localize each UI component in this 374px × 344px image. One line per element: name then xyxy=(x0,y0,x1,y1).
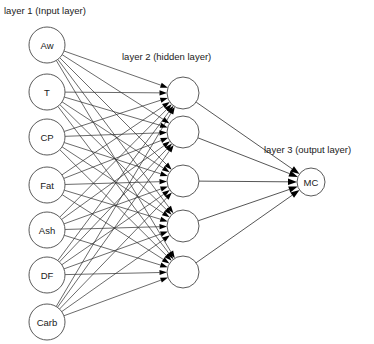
input-layer-node-1[interactable]: T xyxy=(29,74,65,110)
hidden-layer-node-circle-3 xyxy=(167,210,199,242)
input-layer-node-0[interactable]: Aw xyxy=(29,27,65,63)
input-layer-node-label-1: T xyxy=(44,87,50,98)
hidden-layer-node-1[interactable] xyxy=(167,116,199,148)
input-layer-node-6[interactable]: Carb xyxy=(29,304,65,340)
input-layer-node-4[interactable]: Ash xyxy=(29,212,65,248)
input-layer-node-label-4: Ash xyxy=(39,225,55,236)
hidden-layer-node-3[interactable] xyxy=(167,210,199,242)
output-layer-nodes: MC xyxy=(297,168,325,196)
input-layer-node-label-6: Carb xyxy=(37,317,58,328)
network-canvas: AwTCPFatAshDFCarb MC layer 1 (Input laye… xyxy=(0,0,374,344)
input-layer-node-2[interactable]: CP xyxy=(29,119,65,155)
input-layer-node-label-5: DF xyxy=(41,270,54,281)
hidden-layer-node-circle-4 xyxy=(167,256,199,288)
output-layer-caption: layer 3 (output layer) xyxy=(264,144,351,155)
hidden-layer-node-circle-1 xyxy=(167,116,199,148)
input-layer-node-label-3: Fat xyxy=(40,180,54,191)
hidden-layer-node-circle-2 xyxy=(167,165,199,197)
input-layer-node-3[interactable]: Fat xyxy=(29,167,65,203)
hidden-layer-node-circle-0 xyxy=(167,77,199,109)
output-layer-node-0[interactable]: MC xyxy=(297,168,325,196)
hidden-layer-node-4[interactable] xyxy=(167,256,199,288)
hidden-layer-node-2[interactable] xyxy=(167,165,199,197)
input-layer-node-label-0: Aw xyxy=(40,40,53,51)
output-layer-node-label-0: MC xyxy=(304,177,319,188)
input-layer-node-label-2: CP xyxy=(40,132,53,143)
input-layer-caption: layer 1 (Input layer) xyxy=(4,5,86,16)
input-layer-node-5[interactable]: DF xyxy=(29,257,65,293)
hidden-layer-node-0[interactable] xyxy=(167,77,199,109)
neural-network-diagram: AwTCPFatAshDFCarb MC layer 1 (Input laye… xyxy=(0,0,374,344)
hidden-layer-caption: layer 2 (hidden layer) xyxy=(122,51,211,62)
